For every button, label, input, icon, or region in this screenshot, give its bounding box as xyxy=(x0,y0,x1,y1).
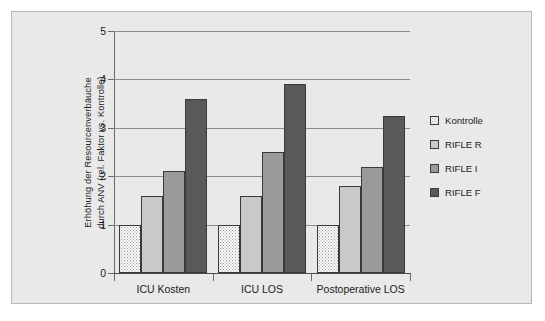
bar xyxy=(185,99,207,273)
x-axis-tick xyxy=(213,274,214,281)
gridline xyxy=(114,79,410,80)
legend-item[interactable]: RIFLE I xyxy=(430,163,525,174)
y-axis-title: Erhöhung der Resourcenverbäuche durch AN… xyxy=(60,84,92,274)
y-axis-tick xyxy=(108,79,114,80)
legend-swatch-icon xyxy=(430,164,439,173)
bar xyxy=(119,225,141,273)
legend-item[interactable]: RIFLE R xyxy=(430,139,525,150)
bar xyxy=(317,225,339,273)
bar xyxy=(339,186,361,273)
bar xyxy=(383,116,405,273)
y-axis-tick xyxy=(108,225,114,226)
bar xyxy=(240,196,262,273)
legend-swatch-icon xyxy=(430,188,439,197)
legend-swatch-icon xyxy=(430,140,439,149)
plot-area xyxy=(114,31,410,273)
x-axis-tick xyxy=(114,274,115,281)
bar xyxy=(218,225,240,273)
bar xyxy=(141,196,163,273)
legend-item[interactable]: RIFLE F xyxy=(430,187,525,198)
x-axis-category-label: ICU Kosten xyxy=(114,284,213,296)
x-axis-line xyxy=(114,273,411,274)
bar xyxy=(284,84,306,273)
bar xyxy=(361,167,383,273)
legend-item-label: RIFLE R xyxy=(445,140,482,150)
x-axis-tick xyxy=(410,274,411,281)
x-axis-category-label: Postoperative LOS xyxy=(311,284,410,296)
x-axis-category-label: ICU LOS xyxy=(213,284,312,296)
legend-item-label: Kontrolle xyxy=(445,116,483,126)
legend-swatch-icon xyxy=(430,116,439,125)
y-axis-title-line-2: durch ANV (rel. Faktor vs. Kontrolle) xyxy=(96,76,106,229)
legend-item[interactable]: Kontrolle xyxy=(430,115,525,126)
y-axis-tick-label: 5 xyxy=(84,26,106,37)
gridline xyxy=(114,128,410,129)
legend-item-label: RIFLE I xyxy=(445,164,478,174)
bar xyxy=(262,152,284,273)
legend-item-label: RIFLE F xyxy=(445,188,481,198)
y-axis-tick xyxy=(108,176,114,177)
gridline xyxy=(114,31,410,32)
y-axis-tick xyxy=(108,128,114,129)
x-axis-tick xyxy=(311,274,312,281)
chart-legend: KontrolleRIFLE RRIFLE IRIFLE F xyxy=(430,115,525,211)
bar xyxy=(163,171,185,273)
y-axis-title-line-1: Erhöhung der Resourcenverbäuche xyxy=(83,77,93,227)
y-axis-tick xyxy=(108,31,114,32)
